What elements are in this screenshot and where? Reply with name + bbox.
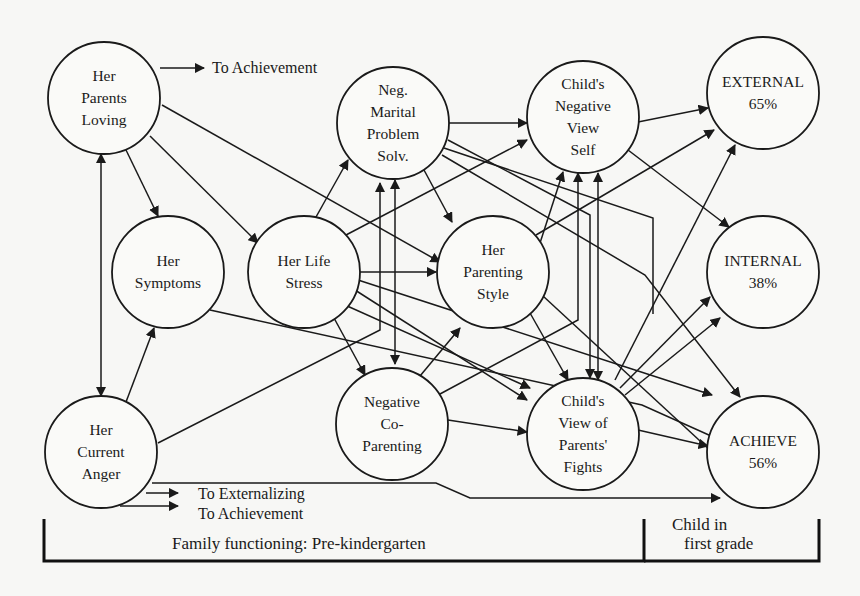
node-external: EXTERNAL65% [707, 37, 819, 149]
path-arrow [316, 160, 348, 217]
path-arrow [638, 108, 708, 122]
node-label: Negative [364, 393, 420, 410]
node-her-symptoms: HerSymptoms [112, 216, 224, 328]
node-neg-marital: Neg.MaritalProblemSolv. [337, 67, 449, 179]
node-label: Child's [561, 392, 604, 409]
node-label: Style [477, 285, 509, 302]
external-path-label: To Externalizing [198, 485, 305, 503]
node-label: ACHIEVE [729, 432, 797, 449]
node-label: 65% [749, 95, 778, 112]
node-label: Her [481, 241, 505, 258]
node-label: Marital [370, 103, 416, 120]
node-label: View of [558, 414, 608, 431]
node-label: Her [89, 421, 113, 438]
node-her-life-stress: Her LifeStress [248, 216, 360, 328]
node-label: Negative [555, 97, 611, 114]
node-label: Current [77, 443, 125, 460]
node-circle [707, 37, 819, 149]
node-label: Parenting [463, 263, 523, 280]
node-label: Parents' [559, 436, 608, 453]
label-family-functioning: Family functioning: Pre-kindergarten [172, 534, 426, 553]
label-child-in: Child in [672, 515, 728, 534]
node-label: Parenting [362, 437, 422, 454]
node-label: Her [156, 252, 180, 269]
node-label: Her [92, 67, 116, 84]
node-label: Child's [561, 75, 604, 92]
node-child-view-fights: Child'sView ofParents'Fights [527, 378, 639, 490]
node-label: EXTERNAL [722, 73, 804, 90]
path-arrow [540, 172, 563, 243]
path-arrow [424, 170, 452, 222]
external-path-label: To Achievement [212, 59, 318, 76]
node-circle [112, 216, 224, 328]
node-label: 56% [749, 454, 778, 471]
node-achieve: ACHIEVE56% [707, 396, 819, 508]
node-label: INTERNAL [724, 252, 802, 269]
node-label: Stress [285, 274, 322, 291]
node-neg-coparenting: NegativeCo-Parenting [336, 368, 448, 480]
node-label: Solv. [377, 147, 408, 164]
node-internal: INTERNAL38% [707, 216, 819, 328]
node-label: Parents [81, 89, 127, 106]
node-label: Self [571, 141, 597, 158]
node-label: Co- [380, 415, 403, 432]
path-arrow [210, 310, 720, 440]
path-arrow [448, 420, 527, 432]
path-arrow [126, 150, 158, 216]
path-diagram: HerParentsLovingNeg.MaritalProblemSolv.C… [0, 0, 860, 596]
node-her-parenting-style: HerParentingStyle [437, 216, 549, 328]
node-label: View [567, 119, 600, 136]
node-circle [248, 216, 360, 328]
node-her-parents-loving: HerParentsLoving [48, 42, 160, 154]
time-bracket: Family functioning: Pre-kindergarten Chi… [44, 515, 819, 561]
node-circle [707, 216, 819, 328]
node-child-neg-view-self: Child'sNegativeViewSelf [527, 61, 639, 173]
path-arrow [625, 318, 720, 395]
node-label: Symptoms [135, 274, 201, 291]
node-label: Neg. [378, 81, 408, 98]
node-label: Loving [82, 111, 127, 128]
node-label: Her Life [278, 252, 331, 269]
node-circle [707, 396, 819, 508]
path-arrow [126, 328, 154, 402]
node-label: Fights [564, 458, 603, 475]
node-label: Anger [82, 465, 122, 482]
node-label: 38% [749, 274, 778, 291]
path-arrow [334, 318, 365, 375]
label-first-grade: first grade [684, 534, 753, 553]
external-path-label: To Achievement [198, 505, 304, 522]
node-label: Problem [367, 125, 420, 142]
node-her-current-anger: HerCurrentAnger [45, 396, 157, 508]
